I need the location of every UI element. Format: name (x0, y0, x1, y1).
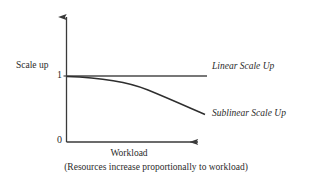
y-tick-label-zero: 0 (57, 135, 62, 145)
legend-label-sublinear-scale-up: Sublinear Scale Up (212, 109, 286, 119)
scale-up-figure: Scale up 1 0 Linear Scale Up Sublinear S… (0, 0, 312, 178)
figure-caption: (Resources increase proportionally to wo… (0, 163, 312, 173)
y-axis-title: Scale up (16, 61, 48, 71)
sublinear-scale-up-curve (67, 77, 205, 115)
legend-label-linear-scale-up: Linear Scale Up (212, 62, 274, 72)
y-tick-label-one: 1 (57, 70, 62, 80)
x-axis-title: Workload (0, 149, 285, 159)
